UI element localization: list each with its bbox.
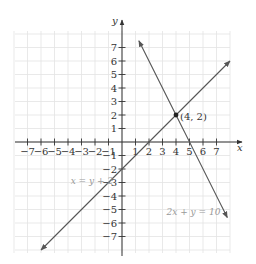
axes (15, 20, 242, 256)
x-tick-label: 3 (159, 146, 165, 157)
series-line-2 (139, 41, 227, 218)
y-tick-label: 6 (111, 56, 117, 67)
y-tick-label: 4 (111, 83, 117, 94)
y-tick-label: 3 (111, 96, 117, 107)
y-tick-label: 2 (111, 110, 117, 121)
y-tick-label: −7 (102, 231, 117, 242)
y-tick-label: 7 (111, 42, 117, 53)
x-tick-label: 7 (213, 146, 219, 157)
y-tick-label: 1 (111, 123, 117, 134)
y-tick-label: −6 (102, 218, 117, 229)
intersection-label: (4, 2) (180, 111, 207, 122)
y-tick-label: 5 (111, 69, 117, 80)
x-tick-label: 4 (173, 146, 179, 157)
x-tick-label: 6 (200, 146, 206, 157)
y-tick-label: −2 (102, 164, 117, 175)
y-axis-label: y (111, 15, 118, 26)
y-tick-label: −1 (102, 150, 117, 161)
intersection-point (174, 113, 179, 118)
y-tick-label: −5 (102, 204, 117, 215)
line-label-2x-plus-y-eq-10: 2x + y = 10 (166, 207, 221, 217)
line-label-x-eq-y-plus-2: x = y + 2 (71, 176, 114, 186)
coordinate-plane: −7−6−5−4−3−2−11234567−7−6−5−4−3−2−112345… (0, 0, 256, 264)
y-tick-label: −4 (102, 191, 117, 202)
x-axis-label: x (237, 142, 243, 153)
x-tick-label: 2 (146, 146, 152, 157)
